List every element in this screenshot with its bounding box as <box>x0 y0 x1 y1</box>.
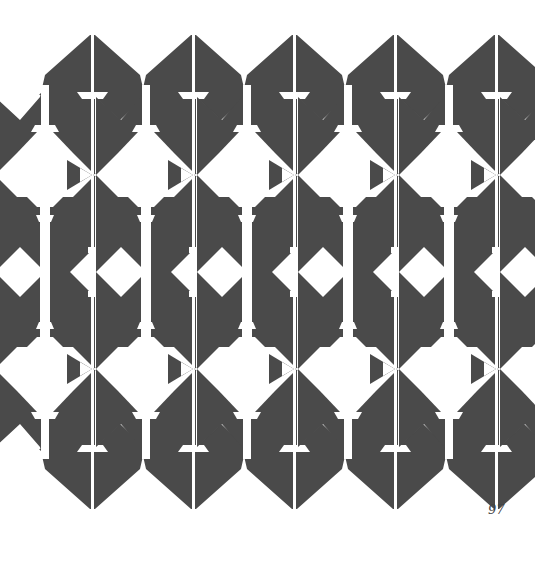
geometric-pattern <box>0 0 535 564</box>
page-number: 97 <box>488 502 505 517</box>
